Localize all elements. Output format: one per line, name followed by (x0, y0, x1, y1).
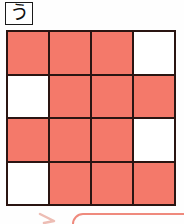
worksheet-page: う (0, 0, 184, 224)
grid-cell-r1c4[interactable] (134, 32, 174, 74)
grid-cell-r1c2[interactable] (50, 32, 90, 74)
grid-cell-r4c2[interactable] (50, 163, 90, 205)
grid-cell-r1c1[interactable] (8, 32, 48, 74)
grid-cell-r4c4[interactable] (134, 163, 174, 205)
grid-cell-r2c2[interactable] (50, 76, 90, 118)
grid-cell-r3c2[interactable] (50, 119, 90, 161)
puzzle-grid[interactable] (6, 30, 176, 206)
rounded-rectangle-outline (72, 213, 184, 224)
question-label-character: う (10, 3, 29, 22)
grid-cell-r3c1[interactable] (8, 119, 48, 161)
grid-cell-r2c4[interactable] (134, 76, 174, 118)
grid-cell-r4c3[interactable] (92, 163, 132, 205)
grid-cell-r3c3[interactable] (92, 119, 132, 161)
arrow-mark-icon (38, 212, 64, 224)
question-label-box: う (5, 2, 33, 25)
grid-cell-r1c3[interactable] (92, 32, 132, 74)
grid-cell-r3c4[interactable] (134, 119, 174, 161)
grid-cell-r2c3[interactable] (92, 76, 132, 118)
grid-cell-r4c1[interactable] (8, 163, 48, 205)
grid-cell-r2c1[interactable] (8, 76, 48, 118)
